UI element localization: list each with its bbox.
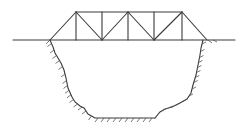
diagonal-member [128, 12, 154, 40]
end-post-right [182, 12, 207, 40]
hatch-mark [131, 118, 134, 122]
hatch-mark [107, 118, 110, 122]
hatch-mark [67, 95, 71, 98]
hatch-mark [50, 50, 54, 53]
hatch-mark [65, 90, 69, 93]
hatch-mark [125, 118, 128, 122]
hatch-mark [61, 74, 65, 77]
hatch-mark [137, 118, 140, 122]
hatch-mark [176, 103, 180, 105]
hatch-mark [56, 61, 60, 64]
ground-hatching [46, 40, 217, 122]
hatch-mark [89, 116, 92, 120]
truss-bridge-diagram [0, 0, 243, 130]
hatch-mark [95, 118, 98, 122]
hatch-mark [78, 107, 82, 110]
hatch-mark [82, 111, 86, 114]
end-post-left [50, 12, 76, 40]
hatch-mark [70, 100, 74, 103]
gorge-outline [50, 40, 203, 118]
gorge-profile [50, 40, 203, 118]
hatch-mark [59, 67, 63, 70]
hatch-mark [53, 56, 57, 59]
hatch-mark [155, 115, 158, 119]
diagonal-member [154, 12, 182, 40]
hatch-mark [113, 118, 116, 122]
hatch-mark [48, 44, 52, 47]
diagonal-member [76, 12, 102, 40]
hatch-mark [101, 118, 104, 122]
hatch-mark [63, 81, 67, 84]
hatch-mark [149, 118, 152, 122]
hatch-mark [64, 86, 68, 89]
diagonal-member [102, 12, 128, 40]
truss-bridge [50, 12, 207, 40]
hatch-mark [143, 118, 146, 122]
hatch-mark [74, 104, 78, 107]
hatch-mark [119, 118, 122, 122]
hatch-mark [46, 40, 50, 44]
